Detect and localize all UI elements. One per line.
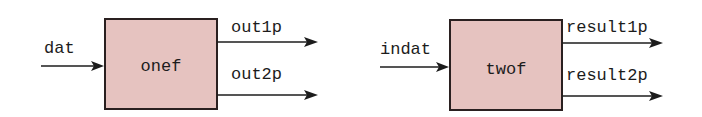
output-label-out2p: out2p [231,65,282,84]
input-label-indat: indat [380,40,431,59]
block-onef-label: onef [141,57,182,76]
input-label-dat: dat [44,39,75,58]
block-twof: twof indat result1p result2p [380,18,663,110]
block-twof-label: twof [486,60,527,79]
output-label-result2p: result2p [566,66,648,85]
output-label-out1p: out1p [231,18,282,37]
block-onef: onef dat out1p out2p [41,18,318,109]
diagram-canvas: onef dat out1p out2p twof indat result1p… [0,0,702,117]
output-label-result1p: result1p [566,18,648,37]
